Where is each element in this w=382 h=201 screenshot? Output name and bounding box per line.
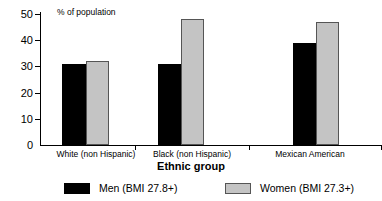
x-category-label-black: Black (non Hispanic) <box>138 149 246 159</box>
chart-legend: Men (BMI 27.8+) Women (BMI 27.3+) <box>0 181 382 197</box>
bar-chart: % of population 50 40 30 20 10 0 White (… <box>0 0 382 201</box>
x-category-label-mexican: Mexican American <box>260 149 360 159</box>
y-tick-label-50: 50 <box>5 9 33 20</box>
y-tick-label-30: 30 <box>5 61 33 72</box>
x-axis-line <box>40 145 382 146</box>
legend-item-women: Women (BMI 27.3+) <box>225 181 354 195</box>
y-tick-label-0: 0 <box>5 140 33 151</box>
x-axis-title: Ethnic group <box>0 160 382 173</box>
plot-area <box>40 14 382 145</box>
bar-women-mexican <box>316 22 339 145</box>
x-tick-1 <box>249 146 250 150</box>
bar-men-black <box>158 64 181 145</box>
y-tick-label-10: 10 <box>5 114 33 125</box>
legend-swatch-women-icon <box>225 183 251 194</box>
bar-women-black <box>181 19 204 145</box>
y-tick-label-40: 40 <box>5 35 33 46</box>
legend-swatch-men-icon <box>64 183 90 194</box>
bar-women-white <box>86 61 109 145</box>
legend-label-women: Women (BMI 27.3+) <box>260 182 354 194</box>
bar-men-mexican <box>293 43 316 145</box>
legend-item-men: Men (BMI 27.8+) <box>64 181 178 195</box>
y-tick-label-20: 20 <box>5 88 33 99</box>
bar-men-white <box>62 64 86 145</box>
legend-label-men: Men (BMI 27.8+) <box>99 182 178 194</box>
x-category-label-white: White (non Hispanic) <box>42 149 150 159</box>
